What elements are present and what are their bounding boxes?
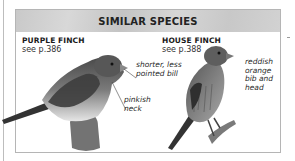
annotation-pinkish-neck: pinkish neck [124, 96, 151, 113]
page-margin-mark [287, 37, 290, 38]
annotation-reddish-bib: reddish orange bib and head [245, 58, 273, 92]
panel-title: SIMILAR SPECIES [98, 16, 197, 27]
purple-finch-illustration [2, 40, 137, 155]
panel-header: SIMILAR SPECIES [16, 10, 280, 32]
house-finch-illustration [164, 40, 244, 152]
similar-species-panel: SIMILAR SPECIES PURPLE FINCH see p.386 s… [15, 9, 281, 153]
